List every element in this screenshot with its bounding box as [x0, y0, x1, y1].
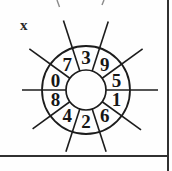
- cropped-line-stubs: [57, 0, 104, 7]
- dial-number: 0: [51, 70, 61, 91]
- dial-number: 1: [112, 89, 122, 110]
- dial-number: 5: [112, 70, 122, 91]
- dial-number: 2: [81, 111, 91, 132]
- frame-right-border: [167, 0, 169, 171]
- dial-number: 4: [62, 105, 72, 126]
- figure-canvas: x 3951624807: [0, 0, 172, 171]
- dial-number: 9: [100, 54, 110, 75]
- inner-circle: [66, 70, 106, 110]
- dial-number: 6: [100, 105, 110, 126]
- dial-number: 8: [51, 89, 61, 110]
- dial-number: 7: [62, 54, 72, 75]
- frame-bottom-border: [0, 155, 169, 157]
- dial-number: 3: [81, 47, 91, 68]
- wheel-group: 3951624807: [22, 21, 158, 152]
- cropped-line-stub: [57, 0, 60, 7]
- number-wheel-diagram: 3951624807: [0, 0, 172, 171]
- cropped-line-stub: [102, 0, 104, 5]
